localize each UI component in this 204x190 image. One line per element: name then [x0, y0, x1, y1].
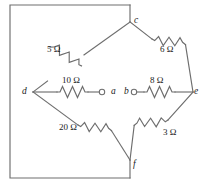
- wire-r5-to-d: [33, 81, 48, 92]
- wire-e-to-r3: [168, 92, 193, 120]
- wire-r20-to-f: [112, 131, 131, 160]
- wire-c-to-r5: [84, 22, 130, 55]
- resistor-20-ohm-zigzag: [78, 123, 112, 132]
- terminal-a-open-circle[interactable]: [99, 89, 104, 94]
- wire-r3-to-f: [130, 125, 134, 160]
- terminal-b-open-circle[interactable]: [131, 89, 136, 94]
- circuit-diagram-figure: c d e f a b 5 Ω 6 Ω 10 Ω 8 Ω 20 Ω 3 Ω: [0, 0, 204, 190]
- wire-d-to-r20: [33, 92, 78, 125]
- wire-c-to-r6: [130, 22, 152, 39]
- circuit-schematic-canvas: [0, 0, 204, 190]
- resistor-6-ohm-zigzag: [152, 37, 186, 46]
- resistor-10-ohm-zigzag: [57, 87, 88, 98]
- resistor-8-ohm-zigzag: [144, 87, 175, 98]
- resistor-5-ohm-zigzag: [49, 41, 84, 69]
- wire-r6-to-e: [186, 45, 194, 92]
- resistor-3-ohm-zigzag: [134, 118, 168, 127]
